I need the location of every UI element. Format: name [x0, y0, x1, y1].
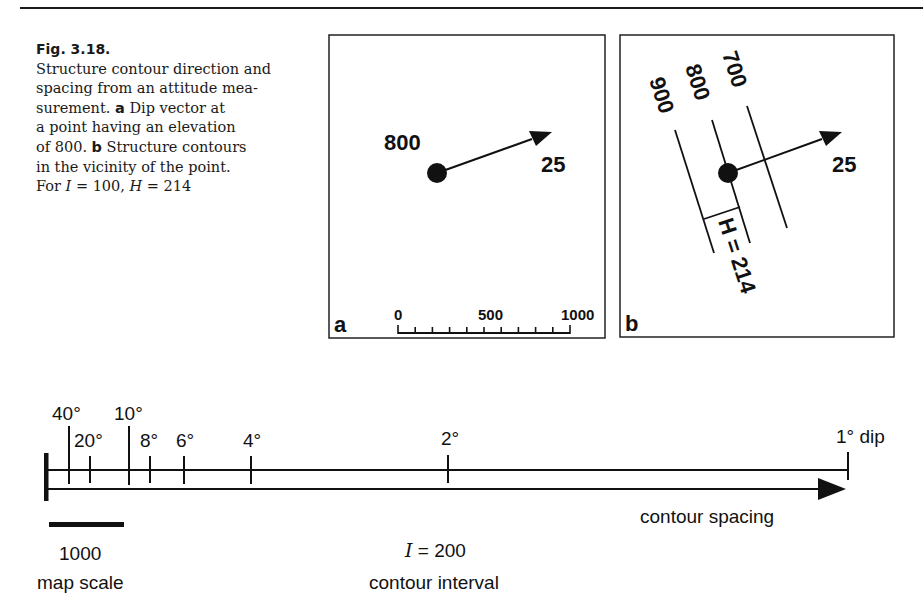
elevation-label: 800	[384, 130, 421, 155]
contour-line-900	[675, 130, 714, 253]
map-scale-value: 1000	[59, 543, 101, 564]
tick-label-8: 8°	[140, 430, 158, 451]
panel-a: 800 25 a 0 500 1000	[329, 35, 605, 338]
contour-line-700	[747, 106, 787, 228]
tick-label-10: 10°	[114, 403, 143, 424]
tick-label-1-dip: 1° dip	[836, 426, 885, 447]
panel-b: 900 800 700 25 H = 214 b	[620, 35, 894, 337]
dip-arrowhead-icon	[529, 131, 552, 146]
dip-vector-line	[437, 139, 532, 173]
panel-a-frame	[329, 35, 605, 338]
scale-bar: 0 500 1000	[394, 306, 594, 334]
figure-graphics: 800 25 a 0 500 1000	[0, 0, 923, 597]
spacing-label: H = 214	[713, 215, 761, 297]
contour-interval-label: contour interval	[369, 572, 499, 593]
dip-vector-line	[728, 139, 822, 173]
panel-b-letter: b	[625, 311, 638, 336]
contour-interval-value: I = 200	[404, 539, 466, 561]
axis-arrowhead-icon	[818, 478, 846, 500]
dip-value-label: 25	[832, 152, 856, 177]
contour-label-800: 800	[680, 61, 715, 104]
figure-page: Fig. 3.18. Structure contour direction a…	[0, 0, 923, 597]
contour-label-700: 700	[717, 48, 752, 91]
axis-label-contour-spacing: contour spacing	[640, 506, 774, 527]
tick-label-4: 4°	[243, 430, 261, 451]
dip-arrowhead-icon	[819, 131, 842, 146]
map-scale-label: map scale	[37, 572, 124, 593]
tick-label-40: 40°	[52, 403, 81, 424]
dip-value-label: 25	[541, 152, 565, 177]
contour-label-900: 900	[644, 74, 679, 117]
scale-label-0: 0	[394, 306, 402, 323]
contour-spacing-nomogram: 40° 20° 10° 8° 6° 4° 2° 1° dip contour s…	[37, 403, 885, 593]
scale-label-1000: 1000	[561, 306, 594, 323]
map-scale-bar	[49, 522, 124, 527]
origin-bar	[44, 453, 49, 501]
tick-label-20: 20°	[74, 430, 103, 451]
tick-label-6: 6°	[176, 430, 194, 451]
scale-label-500: 500	[478, 306, 503, 323]
panel-a-letter: a	[334, 312, 347, 337]
interval-rest: = 200	[413, 540, 466, 561]
tick-label-2: 2°	[441, 428, 459, 449]
